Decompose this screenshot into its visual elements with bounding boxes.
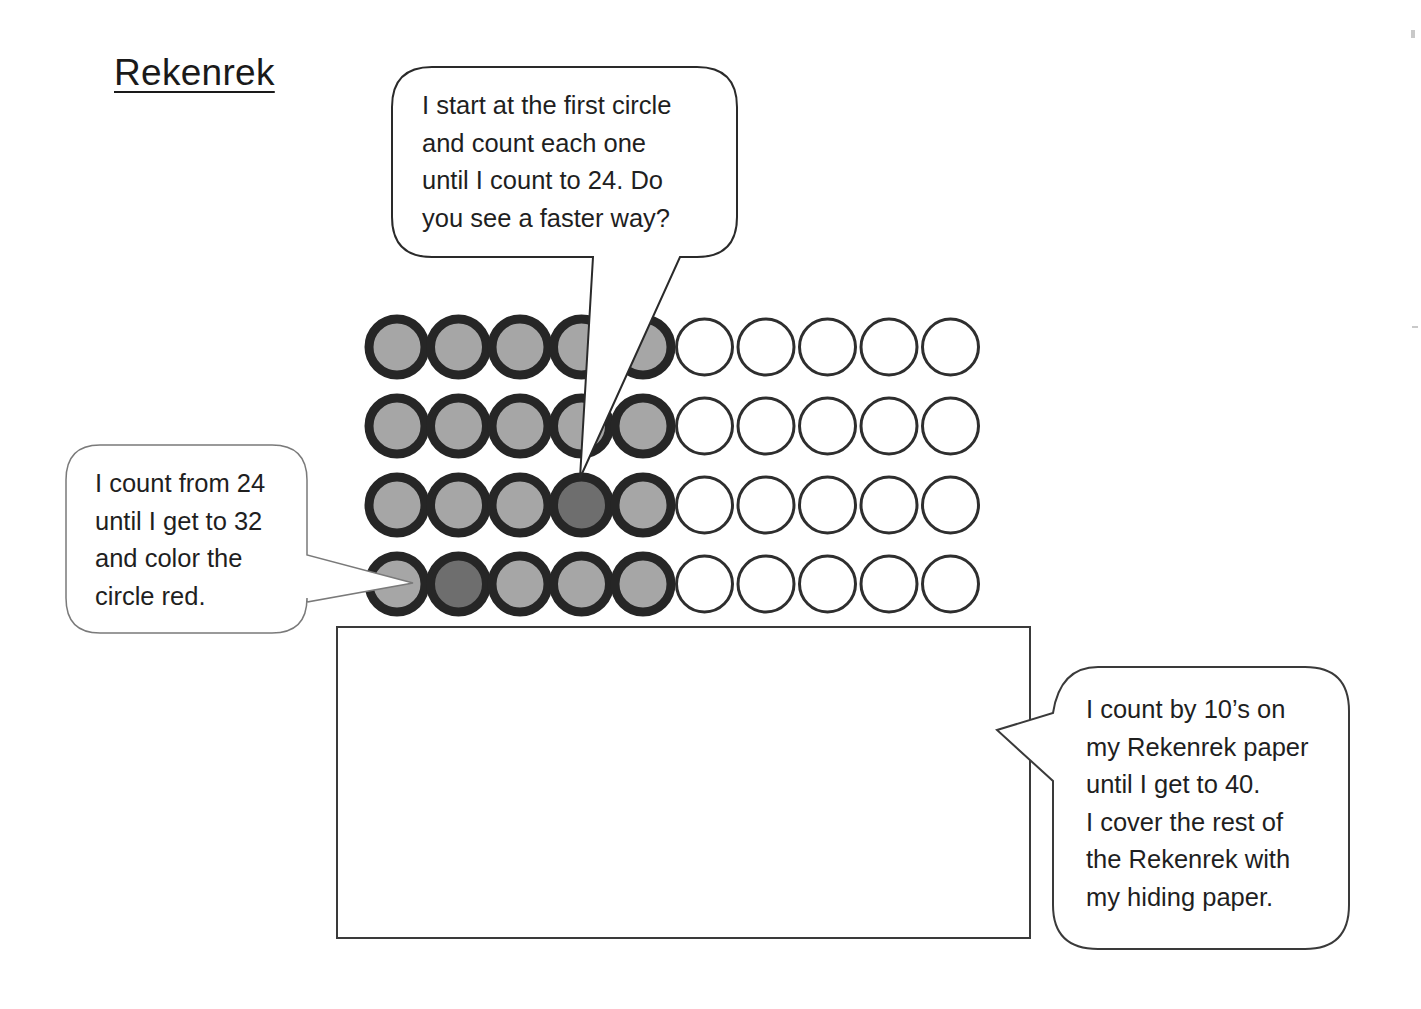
- bead-shaded: [615, 398, 671, 454]
- bead-shaded: [554, 556, 610, 612]
- bead-empty: [861, 319, 917, 375]
- hiding-paper-rectangle: [337, 627, 1030, 938]
- speech-bubble-right-text: I count by 10’s on my Rekenrek paper unt…: [1086, 691, 1336, 916]
- speech-bubble-top-text: I start at the first circle and count ea…: [422, 87, 722, 237]
- rekenrek-bead-grid: [369, 319, 979, 612]
- bead-shaded: [492, 319, 548, 375]
- bead-empty: [923, 398, 979, 454]
- bead-empty: [861, 556, 917, 612]
- bead-empty: [800, 556, 856, 612]
- bead-shaded: [369, 398, 425, 454]
- bead-empty: [738, 319, 794, 375]
- bead-shaded: [492, 398, 548, 454]
- bead-shaded: [615, 477, 671, 533]
- bead-empty: [677, 556, 733, 612]
- bead-empty: [923, 556, 979, 612]
- bead-shaded: [492, 556, 548, 612]
- bead-empty: [738, 477, 794, 533]
- bead-marked-red: [554, 477, 610, 533]
- bead-shaded: [369, 319, 425, 375]
- scan-artifact: [1412, 326, 1418, 328]
- bead-empty: [800, 398, 856, 454]
- bead-empty: [923, 477, 979, 533]
- bead-empty: [677, 477, 733, 533]
- bead-empty: [923, 319, 979, 375]
- bead-empty: [800, 477, 856, 533]
- bead-shaded: [431, 398, 487, 454]
- bead-empty: [738, 398, 794, 454]
- scan-artifact: [1411, 30, 1415, 38]
- bead-empty: [677, 319, 733, 375]
- bead-empty: [861, 398, 917, 454]
- bead-shaded: [492, 477, 548, 533]
- speech-bubble-left-text: I count from 24 until I get to 32 and co…: [95, 465, 295, 615]
- bead-shaded: [431, 477, 487, 533]
- bead-empty: [677, 398, 733, 454]
- bead-shaded: [369, 477, 425, 533]
- bead-empty: [861, 477, 917, 533]
- bead-empty: [800, 319, 856, 375]
- bead-shaded: [615, 556, 671, 612]
- bead-shaded: [431, 319, 487, 375]
- bead-empty: [738, 556, 794, 612]
- bead-marked-red: [431, 556, 487, 612]
